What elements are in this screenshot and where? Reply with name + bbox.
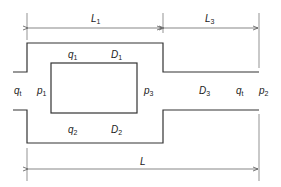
label-p1: p1: [36, 85, 47, 97]
label-L1: L1: [91, 13, 101, 25]
label-p2: p2: [258, 85, 269, 97]
label-qt-outlet: qt: [236, 85, 244, 97]
label-D2: D2: [111, 124, 122, 136]
label-D1: D1: [111, 49, 122, 61]
label-L3: L3: [205, 13, 215, 25]
label-q1: q1: [68, 49, 78, 61]
pipe-walls: [13, 43, 259, 143]
pipe-network-diagram: L1 L3 L q1 D1 q2 D2 qt p1 p3 D3 qt p2: [0, 0, 281, 187]
label-D3: D3: [199, 85, 210, 97]
label-p3: p3: [143, 85, 154, 97]
loop-island: [51, 63, 137, 113]
label-qt-inlet: qt: [14, 85, 22, 97]
label-L: L: [140, 156, 146, 167]
label-q2: q2: [68, 124, 78, 136]
